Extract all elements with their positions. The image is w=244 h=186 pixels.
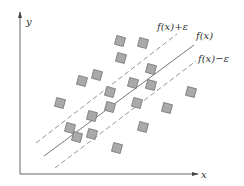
data-point: [91, 69, 102, 80]
data-point: [104, 86, 115, 97]
data-point: [115, 52, 126, 63]
epsilon-tube: f(x)+ε f(x) f(x)−ε: [36, 21, 229, 168]
data-point: [131, 97, 142, 108]
data-point: [185, 86, 196, 97]
x-axis-label: x: [201, 169, 207, 180]
data-point: [76, 75, 87, 86]
data-point: [71, 131, 82, 142]
diagram-canvas: x y f(x)+ε f(x) f(x)−ε: [0, 0, 244, 186]
lower-bound-label: f(x)−ε: [197, 53, 229, 64]
data-point: [54, 97, 65, 108]
data-point: [127, 77, 138, 88]
data-points: [54, 35, 196, 153]
data-point: [86, 110, 97, 121]
upper-bound-label: f(x)+ε: [156, 21, 188, 32]
data-point: [111, 142, 122, 153]
regression-line-label: f(x): [195, 30, 213, 41]
data-point: [145, 79, 156, 90]
data-point: [104, 101, 115, 112]
svr-diagram: x y f(x)+ε f(x) f(x)−ε: [0, 0, 244, 186]
y-axis-label: y: [25, 16, 32, 27]
data-point: [114, 35, 125, 46]
data-point: [86, 128, 97, 139]
lower-bound-line: [55, 61, 196, 168]
data-point: [137, 121, 148, 132]
data-point: [161, 102, 172, 113]
data-point: [145, 63, 156, 74]
data-point: [137, 37, 148, 48]
